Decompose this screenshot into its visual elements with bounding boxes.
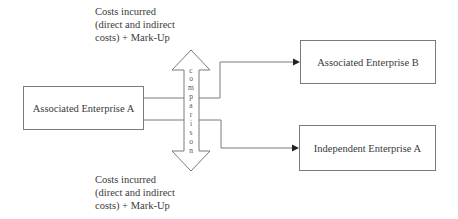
bottom-note-line-2: (direct and indirect [95, 187, 175, 200]
comparison-letter: o [183, 137, 199, 146]
comparison-letter: s [183, 128, 199, 137]
comparison-letter: p [183, 92, 199, 101]
comparison-letter: r [183, 110, 199, 119]
comparison-letter: o [183, 74, 199, 83]
comparison-letter: n [183, 146, 199, 155]
node-associated-enterprise-b: Associated Enterprise B [300, 40, 436, 84]
connector-to-ie-a [199, 120, 293, 148]
top-cost-note: Costs incurred (direct and indirect cost… [95, 6, 175, 44]
comparison-letter: a [183, 101, 199, 110]
bottom-cost-note: Costs incurred (direct and indirect cost… [95, 174, 175, 212]
arrowhead-to-ie-a-icon [292, 145, 299, 152]
bottom-note-line-1: Costs incurred [95, 174, 175, 187]
connector-to-ae-b [199, 62, 294, 98]
node-label: Associated Enterprise B [317, 57, 418, 68]
comparison-letter: m [183, 83, 199, 92]
comparison-label: c o m p a r i s o n [183, 66, 199, 156]
top-note-line-3: costs) + Mark-Up [95, 32, 175, 45]
node-independent-enterprise-a: Independent Enterprise A [299, 125, 436, 171]
node-label: Independent Enterprise A [314, 143, 421, 154]
top-note-line-1: Costs incurred [95, 6, 175, 19]
comparison-letter: i [183, 119, 199, 128]
node-label: Associated Enterprise A [33, 103, 134, 114]
bottom-note-line-3: costs) + Mark-Up [95, 200, 175, 213]
node-associated-enterprise-a: Associated Enterprise A [23, 86, 144, 130]
arrowhead-to-ae-b-icon [293, 59, 300, 66]
top-note-line-2: (direct and indirect [95, 19, 175, 32]
